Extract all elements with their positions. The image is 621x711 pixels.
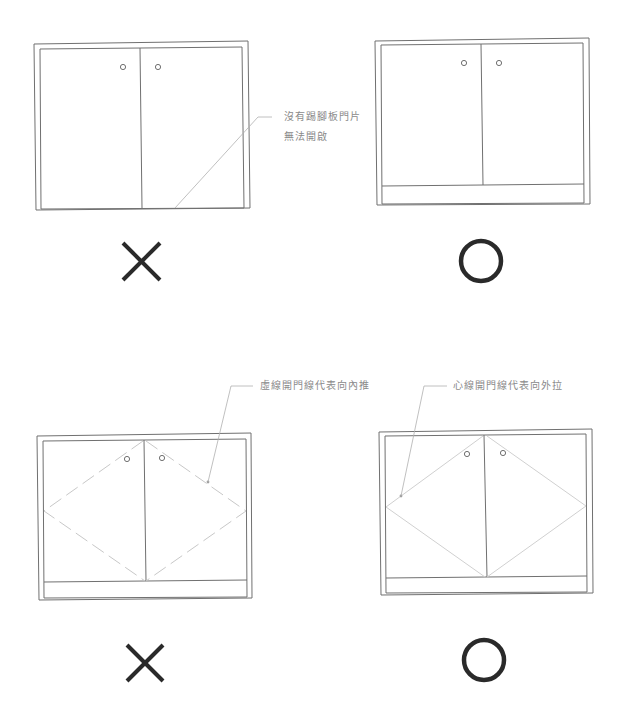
door-divider: [144, 440, 146, 581]
annotation-leader-line: [175, 117, 272, 208]
door-handle-right: [500, 450, 505, 455]
cabinet-top-left: [34, 41, 250, 210]
circle-icon: [461, 241, 501, 281]
annotation-bottom-left: 虛線開門線代表向內推: [260, 379, 370, 393]
cabinet-door-comparison-diagram: 沒有踢腳板門片 無法開啟 虛線開門線代表向內推 心線開門線代表向外拉: [0, 0, 621, 711]
door-divider: [484, 435, 487, 577]
door-handle-right: [496, 60, 501, 65]
door-handle-left: [120, 64, 125, 69]
cabinet-top-right: [375, 38, 590, 205]
door-handle-right: [159, 455, 164, 460]
diagram-canvas: [0, 0, 621, 711]
annotation-top-left-line2: 無法開啟: [284, 130, 328, 144]
door-divider: [140, 48, 142, 208]
cross-icon: [127, 645, 163, 681]
door-handle-left: [124, 456, 129, 461]
door-divider: [481, 44, 483, 185]
cabinet-bottom-right: [379, 429, 593, 595]
door-handle-left: [464, 451, 469, 456]
annotation-bottom-right: 心線開門線代表向外拉: [453, 379, 563, 393]
door-handle-left: [461, 60, 466, 65]
door-handle-right: [155, 64, 160, 69]
annotation-top-left-line1: 沒有踢腳板門片: [284, 110, 361, 124]
cross-icon: [123, 243, 160, 280]
circle-icon: [464, 640, 504, 680]
cabinet-bottom-left: [37, 433, 252, 600]
